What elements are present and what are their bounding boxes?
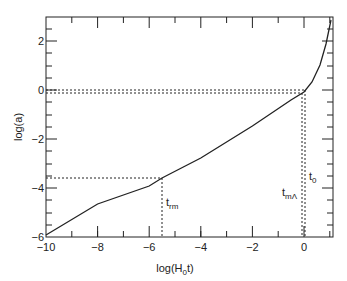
- plot-frame: [46, 17, 333, 237]
- svg-text:−2: −2: [246, 241, 259, 253]
- svg-text:2: 2: [38, 35, 44, 47]
- t0-label: t0: [309, 170, 317, 185]
- svg-text:−2: −2: [31, 133, 44, 145]
- x-tick-labels: −10 −8 −6 −4 −2 0: [37, 241, 307, 253]
- svg-text:−6: −6: [143, 241, 156, 253]
- svg-text:0: 0: [301, 241, 307, 253]
- svg-text:−4: −4: [31, 182, 44, 194]
- svg-text:−4: −4: [195, 241, 208, 253]
- t-mL-label: tmΛ: [282, 186, 298, 201]
- x-ticks: [72, 17, 330, 237]
- y-tick-labels: 2 0 −2 −4 −6: [31, 35, 44, 243]
- scale-factor-curve: [46, 20, 331, 235]
- x-axis-label: log(H0t): [156, 262, 193, 277]
- t-rm-label: trm: [166, 196, 179, 211]
- chart: −10 −8 −6 −4 −2 0 2 0 −2 −4 −6 log(H0t) …: [0, 0, 347, 281]
- y-axis-label: log(a): [12, 113, 24, 141]
- svg-text:0: 0: [38, 84, 44, 96]
- svg-text:−8: −8: [91, 241, 104, 253]
- guide-lines: [46, 90, 305, 237]
- svg-text:−6: −6: [31, 231, 44, 243]
